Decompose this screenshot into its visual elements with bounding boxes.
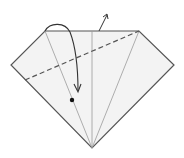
reference-dot — [70, 98, 74, 102]
push-arrow-shaft — [99, 15, 107, 31]
origami-diagram — [0, 0, 184, 158]
paper-shape — [11, 31, 174, 148]
